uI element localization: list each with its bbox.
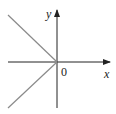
x-axis-label: x: [103, 67, 110, 81]
lower-left-ray: [8, 62, 57, 108]
y-axis-label: y: [45, 7, 52, 21]
upper-left-ray: [8, 15, 57, 62]
origin-label: 0: [61, 65, 67, 79]
graph-canvas: y 0 x: [0, 0, 116, 114]
